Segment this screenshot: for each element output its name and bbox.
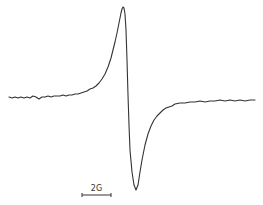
epr-signal-trace — [9, 7, 255, 190]
scale-bar-label: 2G — [91, 184, 102, 193]
scale-bar: 2G — [82, 184, 111, 197]
epr-spectrum-chart: 2G — [0, 0, 263, 205]
